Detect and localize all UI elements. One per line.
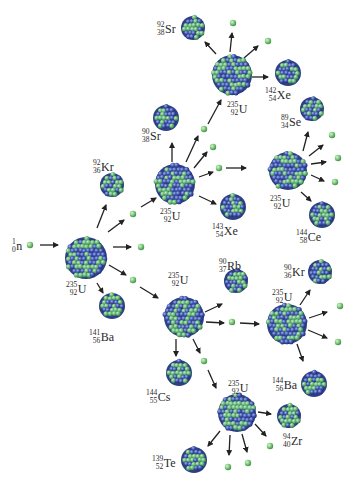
atomic-number: 92 [227,109,238,117]
atomic-number: 56 [272,385,283,393]
reaction-arrow [303,132,308,151]
nuclide-numbers: 23592 [270,195,281,211]
free-neutron-icon [245,460,251,466]
nucleus-ce144 [309,201,335,228]
nucleus-u5 [163,296,205,338]
nucleus-xe143 [220,193,246,220]
label-kr90: 9036Kr [284,263,305,280]
atomic-number: 54 [212,231,223,239]
atomic-number: 38 [157,29,165,37]
element-symbol: U [284,291,293,303]
nuclide-numbers: 23592 [168,272,179,288]
element-symbol: Ba [284,379,297,391]
atomic-number: 92 [168,280,179,288]
element-symbol: Zr [291,435,302,447]
reaction-arrow [309,312,327,318]
free-neutron-icon [201,126,207,132]
reaction-arrow [258,412,271,414]
nuclide-numbers: 9440 [283,433,291,449]
label-ba144: 14456Ba [272,376,297,393]
free-neutron-icon [138,244,144,250]
label-kr92: 9236Kr [93,158,114,175]
nucleus-cs144 [166,359,192,386]
nucleus-u3 [211,54,252,96]
reaction-arrow [97,283,103,293]
reaction-arrow [240,323,259,324]
label-cs144: 14455Cs [146,388,170,405]
label-u3: 23592U [227,100,247,117]
atomic-number: 36 [284,272,292,280]
reaction-arrow [208,100,221,124]
atomic-number: 58 [296,237,307,245]
nucleus-u7 [217,393,257,432]
nuclide-numbers: 9236 [93,159,101,175]
element-symbol: Xe [277,89,291,101]
nuclide-numbers: 23592 [227,101,238,117]
reaction-arrow [194,152,207,168]
label-se89: 8934Se [281,113,301,130]
free-neutron-icon [230,20,236,26]
label-ba141: 14156Ba [89,328,114,345]
label-xe143: 14354Xe [212,222,238,239]
nuclide-numbers: 9036 [284,264,292,280]
element-symbol: Ba [101,331,114,343]
nuclide-numbers: 14456 [272,377,283,393]
nucleus-se89 [300,96,324,121]
reaction-arrow [199,196,216,204]
atomic-number: 92 [160,216,171,224]
element-symbol: Kr [101,161,114,173]
nuclide-numbers: 14455 [146,389,157,405]
reaction-arrow [311,175,324,181]
reaction-arrow [255,424,266,436]
reaction-arrow [311,162,326,164]
reaction-arrow [199,172,213,177]
label-sr92: 9238Sr [157,20,176,37]
nucleus-u2 [154,163,196,205]
reaction-arrow [140,287,158,298]
nuclide-numbers: 23592 [228,380,239,396]
label-te139: 13952Te [152,454,176,471]
nuclide-numbers: 14254 [265,87,276,103]
reaction-arrow [244,46,258,58]
label-u5: 23592U [168,271,188,288]
atomic-number: 55 [146,397,157,405]
free-neutron-icon [335,339,341,345]
free-neutron-icon [130,211,136,217]
nuclide-numbers: 10 [12,238,16,254]
element-symbol: Se [289,116,301,128]
label-u1: 23592U [66,280,86,297]
nuclide-numbers: 13952 [152,455,163,471]
nucleus-ba144 [301,370,327,397]
nuclide-numbers: 23592 [160,208,171,224]
reaction-arrow [205,304,222,312]
nucleus-te139 [181,446,207,473]
free-neutron-icon [210,144,216,150]
atomic-number: 40 [283,441,291,449]
reaction-arrow [309,145,323,156]
reaction-arrow [308,330,327,338]
nuclide-numbers: 9238 [157,21,165,37]
element-symbol: U [172,210,181,222]
atomic-number: 36 [93,167,101,175]
free-neutron-icon [229,319,235,325]
nuclide-numbers: 23592 [272,289,283,305]
element-symbol: Cs [158,391,171,403]
reaction-arrow [230,33,232,52]
reaction-arrow [208,370,216,388]
element-symbol: U [239,103,248,115]
free-neutron-icon [216,165,222,171]
nuclide-numbers: 8934 [281,114,289,130]
reaction-arrow [301,192,311,201]
reaction-arrow [297,344,303,361]
atomic-number: 37 [219,266,227,274]
label-rb90: 9037Rb [219,257,241,274]
nucleus-zr94 [277,403,301,428]
element-symbol: U [78,283,87,295]
label-zr94: 9440Zr [283,432,302,449]
reaction-arrow [141,198,156,207]
nuclide-numbers: 14156 [89,329,100,345]
nucleus-kr92 [100,172,124,197]
element-symbol: Sr [165,23,176,35]
label-u2: 23592U [160,207,180,224]
label-u7: 23592U [228,379,248,396]
